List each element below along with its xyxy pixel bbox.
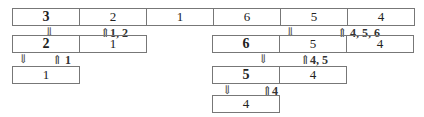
cell: 1 — [147, 9, 214, 25]
array-level-0: 3 2 1 6 5 4 — [12, 8, 415, 26]
array-level-1-right: 6 5 4 — [212, 35, 414, 53]
cell: 5 — [280, 36, 347, 52]
cell: 4 — [213, 96, 279, 112]
array-level-2-left: 1 — [12, 66, 80, 84]
cell: 5 — [281, 9, 348, 25]
cell: 5 — [213, 67, 280, 83]
up-arrow-icon: ⇑ — [300, 53, 310, 67]
down-arrow-icon: ⇓ — [18, 53, 28, 65]
up-arrow-label: ⇑ 1 — [52, 54, 71, 66]
cell: 4 — [347, 36, 413, 52]
up-arrow-label: ⇑4, 5 — [300, 54, 328, 66]
cell: 6 — [213, 36, 280, 52]
up-arrow-icon: ⇑ — [52, 53, 62, 67]
merged-values: 1 — [65, 53, 71, 67]
cell: 4 — [348, 9, 414, 25]
cell: 2 — [13, 36, 80, 52]
cell: 2 — [80, 9, 147, 25]
cell: 6 — [214, 9, 281, 25]
cell: 1 — [13, 67, 79, 83]
cell: 4 — [280, 67, 346, 83]
array-level-2-right: 5 4 — [212, 66, 347, 84]
cell: 1 — [80, 36, 146, 52]
down-arrow-icon: ⇓ — [258, 53, 268, 65]
array-level-3-right: 4 — [212, 95, 280, 113]
array-level-1-left: 2 1 — [12, 35, 147, 53]
merged-values: 4, 5 — [310, 53, 328, 67]
cell: 3 — [13, 9, 80, 25]
